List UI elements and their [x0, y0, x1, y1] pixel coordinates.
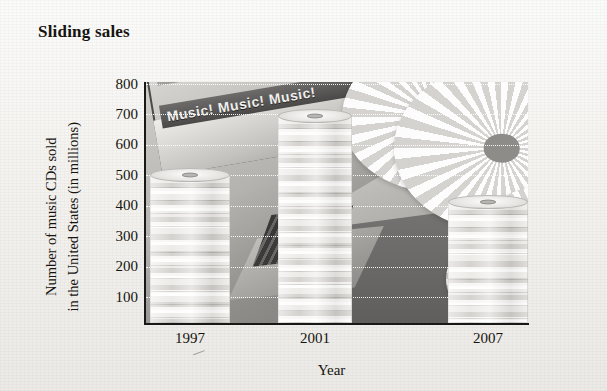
y-tick-400: 400: [92, 197, 138, 214]
bar-2007[interactable]: [448, 201, 528, 323]
bar-top-disc: [278, 109, 352, 123]
y-axis-line: [144, 82, 146, 325]
y-axis-title: Number of music CDs sold in the United S…: [41, 86, 85, 348]
x-axis-title: Year: [0, 362, 607, 379]
y-tick-800: 800: [92, 76, 138, 93]
x-tick-2001: 2001: [300, 330, 330, 347]
y-tick-500: 500: [92, 167, 138, 184]
y-tick-600: 600: [92, 136, 138, 153]
bar-sheen: [278, 115, 352, 323]
bar-sheen: [150, 174, 230, 323]
x-tick-2007: 2007: [473, 330, 503, 347]
bar-top-disc: [150, 168, 230, 182]
bar-sheen: [448, 201, 528, 323]
y-tick-700: 700: [92, 106, 138, 123]
bar-disc-edges: [448, 201, 528, 323]
x-axis-title-text: Year: [318, 362, 346, 378]
plot-area: Music! Music! Music!: [146, 82, 528, 323]
y-axis-title-line-2: in the United States (in millions): [63, 86, 85, 348]
x-tick-1997: 1997: [175, 330, 205, 347]
y-tick-300: 300: [92, 228, 138, 245]
bar-disc-edges: [278, 115, 352, 323]
gridline-800: [146, 84, 528, 85]
bar-top-disc: [448, 195, 528, 209]
y-axis-title-line-1: Number of music CDs sold: [41, 86, 63, 348]
chart-page: Sliding sales Number of music CDs sold i…: [0, 0, 607, 391]
y-tick-200: 200: [92, 258, 138, 275]
bar-disc-edges: [150, 174, 230, 323]
bar-2001[interactable]: [278, 115, 352, 323]
bar-1997[interactable]: [150, 174, 230, 323]
y-tick-100: 100: [92, 289, 138, 306]
x-axis-line: [144, 323, 529, 325]
y-axis-tick-labels: 800 700 600 500 400 300 200 100: [92, 0, 138, 391]
scan-artifact-mark: [193, 350, 207, 361]
